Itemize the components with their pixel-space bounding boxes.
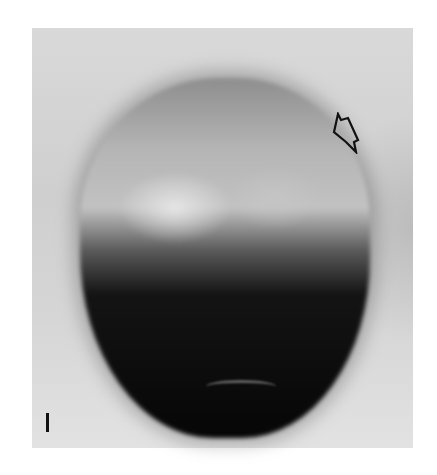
scale-bar bbox=[46, 413, 49, 432]
open-arrow-icon bbox=[332, 112, 364, 154]
specimen-highlight bbox=[206, 380, 276, 393]
